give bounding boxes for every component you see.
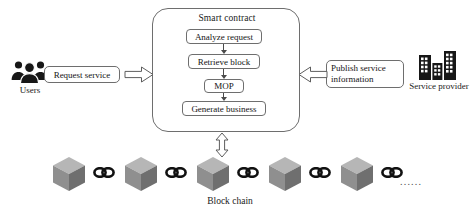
blockchain-block[interactable] (52, 156, 86, 192)
flow-step-retrieve-block[interactable]: Retrieve block (188, 54, 260, 69)
blockchain-block[interactable] (268, 156, 302, 192)
flow-step-generate-business[interactable]: Generate business (182, 101, 266, 116)
connector-arrow-down-icon (220, 69, 227, 79)
arrow-left-icon (298, 66, 328, 83)
service-provider-actor: Service provider (404, 50, 474, 100)
connector-arrow-down-icon (220, 93, 227, 101)
flow-step-mop[interactable]: MOP (204, 79, 244, 93)
chain-link-icon (309, 167, 331, 178)
request-service-label[interactable]: Request service (44, 66, 120, 83)
blockchain-row (0, 150, 474, 200)
buildings-icon (418, 50, 460, 81)
smart-contract-title: Smart contract (153, 13, 301, 23)
blockchain-continuation-ellipsis: ...... (400, 176, 422, 187)
publish-line-2: information (331, 74, 374, 85)
publish-line-1: Publish service (331, 63, 386, 74)
diagram-canvas: Smart contract Analyze request Retrieve … (0, 0, 474, 216)
flow-step-analyze-request[interactable]: Analyze request (186, 29, 262, 44)
users-label: Users (8, 85, 52, 95)
blockchain-label: Block chain (170, 196, 290, 206)
blockchain-block[interactable] (196, 156, 230, 192)
connector-arrow-down-icon (220, 44, 227, 54)
arrow-right-icon (124, 66, 154, 83)
chain-link-icon (165, 167, 187, 178)
blockchain-block[interactable] (340, 156, 374, 192)
service-provider-label: Service provider (402, 81, 474, 91)
blockchain-block[interactable] (124, 156, 158, 192)
chain-link-icon (93, 167, 115, 178)
publish-service-information-label[interactable]: Publish service information (326, 60, 404, 88)
chain-link-icon (237, 167, 259, 178)
